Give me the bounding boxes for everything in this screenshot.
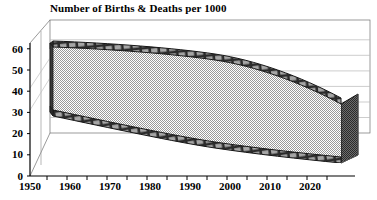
y-tick-label-20: 20 [1,127,23,139]
y-tick-label-50: 50 [1,64,23,76]
x-tick-label-1980: 1980 [133,180,167,192]
chart-canvas [0,0,377,200]
x-tick-label-2000: 2000 [213,180,247,192]
band-end-cap [341,94,358,163]
chart-3d-area-births-deaths: Number of Births & Deaths per 1000 [0,0,377,200]
plot-depth-lines [30,20,50,176]
x-tick-label-2010: 2010 [253,180,287,192]
y-tick-label-10: 10 [1,148,23,160]
x-tick-label-1950: 1950 [13,180,47,192]
y-tick-label-60: 60 [1,43,23,55]
band-left-face [50,43,53,116]
x-tick-label-1960: 1960 [53,180,87,192]
x-tick-label-2020: 2020 [293,180,327,192]
y-tick-label-40: 40 [1,85,23,97]
y-tick-label-30: 30 [1,106,23,118]
x-tick-label-1970: 1970 [93,180,127,192]
x-tick-label-1990: 1990 [173,180,207,192]
